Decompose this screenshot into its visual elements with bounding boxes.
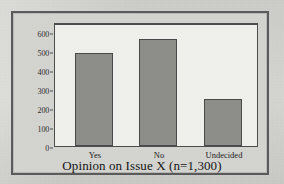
y-tick-mark-200 (50, 110, 53, 111)
x-axis-title: Opinion on Issue X (n=1,300) (13, 158, 271, 174)
y-tick-label-600: 600 (38, 30, 49, 39)
y-tick-label-100: 100 (38, 125, 49, 134)
y-tick-mark-100 (50, 129, 53, 130)
y-axis-tick-group: 600 500 400 300 200 100 0 (13, 24, 53, 164)
y-tick-label-0: 0 (45, 144, 49, 153)
y-tick-mark-500 (50, 53, 53, 54)
bar-yes[interactable] (75, 53, 113, 146)
y-tick-mark-600 (50, 34, 53, 35)
y-tick-label-500: 500 (38, 49, 49, 58)
y-tick-mark-400 (50, 72, 53, 73)
bar-undecided[interactable] (204, 99, 242, 146)
plot-panel (54, 23, 258, 147)
y-tick-mark-300 (50, 91, 53, 92)
y-tick-label-400: 400 (38, 68, 49, 77)
chart-figure-frame: Frequency 600 500 400 300 200 100 0 Yes … (11, 11, 269, 175)
y-tick-label-300: 300 (38, 87, 49, 96)
y-tick-mark-0 (50, 148, 53, 149)
bar-no[interactable] (139, 39, 177, 146)
y-tick-label-200: 200 (38, 106, 49, 115)
